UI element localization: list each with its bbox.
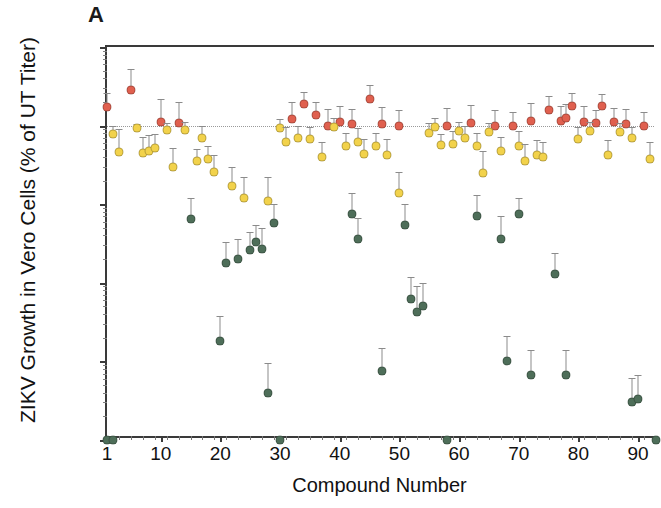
y-axis-minor-tick	[103, 295, 107, 296]
x-axis-tick-label: 10	[150, 443, 171, 465]
x-axis-minor-tick	[167, 436, 168, 440]
error-bar-cap	[587, 122, 594, 123]
error-bar-cap	[497, 216, 504, 217]
error-bar-cap	[599, 94, 606, 95]
data-point	[514, 210, 523, 219]
x-axis-minor-tick	[238, 436, 239, 440]
data-point	[526, 116, 535, 125]
error-bar-cap	[348, 193, 355, 194]
error-bar-cap	[617, 123, 624, 124]
error-bar-cap	[366, 85, 373, 86]
x-axis-minor-tick	[513, 436, 514, 440]
x-axis-minor-tick	[525, 436, 526, 440]
data-point	[646, 154, 655, 163]
error-bar-cap	[288, 102, 295, 103]
data-point	[395, 188, 404, 197]
error-bar-cap	[509, 112, 516, 113]
data-point	[258, 244, 267, 253]
x-axis-minor-tick	[179, 436, 180, 440]
x-axis-minor-tick	[214, 436, 215, 440]
y-axis-minor-tick	[103, 314, 107, 315]
data-point	[562, 113, 571, 122]
error-bar-cap	[479, 151, 486, 152]
data-point	[526, 370, 535, 379]
error-bar-cap	[605, 140, 612, 141]
x-axis-minor-tick	[477, 436, 478, 440]
y-axis-minor-tick	[103, 138, 107, 139]
error-bar-cap	[444, 108, 451, 109]
error-bar-cap	[223, 242, 230, 243]
data-point	[180, 125, 189, 134]
error-bar-cap	[342, 133, 349, 134]
data-point	[228, 182, 237, 191]
x-axis-minor-tick	[334, 436, 335, 440]
error-bar-cap	[521, 144, 528, 145]
y-axis-minor-tick	[103, 88, 107, 89]
data-point	[270, 218, 279, 227]
y-axis-minor-tick	[103, 324, 107, 325]
x-axis-minor-tick	[119, 436, 120, 440]
y-axis-minor-tick	[103, 235, 107, 236]
y-axis-title: ZIKV Growth in Vero Cells (% of UT Titer…	[16, 6, 40, 454]
y-axis-tick	[100, 126, 107, 128]
data-point	[276, 124, 285, 133]
data-point	[431, 123, 440, 132]
data-point	[484, 128, 493, 137]
x-axis-minor-tick	[596, 436, 597, 440]
data-point	[359, 149, 368, 158]
error-bar-cap	[163, 123, 170, 124]
data-point	[634, 395, 643, 404]
x-axis-minor-tick	[501, 436, 502, 440]
data-point	[443, 121, 452, 130]
data-point	[168, 162, 177, 171]
y-axis-minor-tick	[103, 379, 107, 380]
x-axis-minor-tick	[632, 436, 633, 440]
error-bar-cap	[277, 119, 284, 120]
data-point	[496, 235, 505, 244]
y-axis-minor-tick	[103, 338, 107, 339]
x-axis-minor-tick	[310, 436, 311, 440]
error-bar-cap	[432, 118, 439, 119]
x-axis-minor-tick	[191, 436, 192, 440]
x-axis-minor-tick	[346, 436, 347, 440]
data-point	[234, 255, 243, 264]
data-point	[419, 302, 428, 311]
data-point	[371, 142, 380, 151]
data-point	[353, 235, 362, 244]
error-bar-cap	[115, 129, 122, 130]
data-point	[347, 119, 356, 128]
error-bar-cap	[515, 131, 522, 132]
x-axis-tick-label: 30	[269, 443, 290, 465]
data-point	[538, 152, 547, 161]
data-point	[586, 127, 595, 136]
data-point	[287, 115, 296, 124]
y-axis-minor-tick	[103, 393, 107, 394]
data-point	[514, 142, 523, 151]
y-axis-minor-tick	[103, 64, 107, 65]
error-bar-cap	[175, 102, 182, 103]
error-bar-cap	[271, 204, 278, 205]
error-bar-cap	[157, 99, 164, 100]
data-point	[604, 151, 613, 160]
data-point	[240, 193, 249, 202]
error-bar-cap	[354, 218, 361, 219]
y-axis-minor-tick	[103, 216, 107, 217]
error-bar-cap	[265, 177, 272, 178]
x-axis-tick-label: 20	[210, 443, 231, 465]
x-axis-tick	[340, 436, 342, 442]
error-bar-cap	[527, 103, 534, 104]
y-axis-minor-tick	[103, 286, 107, 287]
error-bar-cap	[396, 110, 403, 111]
y-axis-minor-tick	[103, 374, 107, 375]
error-bar-cap	[641, 112, 648, 113]
error-bar-cap	[187, 198, 194, 199]
x-axis-tick-label: 80	[568, 443, 589, 465]
x-axis-minor-tick	[429, 436, 430, 440]
data-point	[293, 133, 302, 142]
y-axis-minor-tick	[103, 129, 107, 130]
x-axis-minor-tick	[417, 436, 418, 440]
x-axis-minor-tick	[489, 436, 490, 440]
x-axis-minor-tick	[155, 436, 156, 440]
error-bar-cap	[181, 122, 188, 123]
error-bar-cap	[306, 127, 313, 128]
